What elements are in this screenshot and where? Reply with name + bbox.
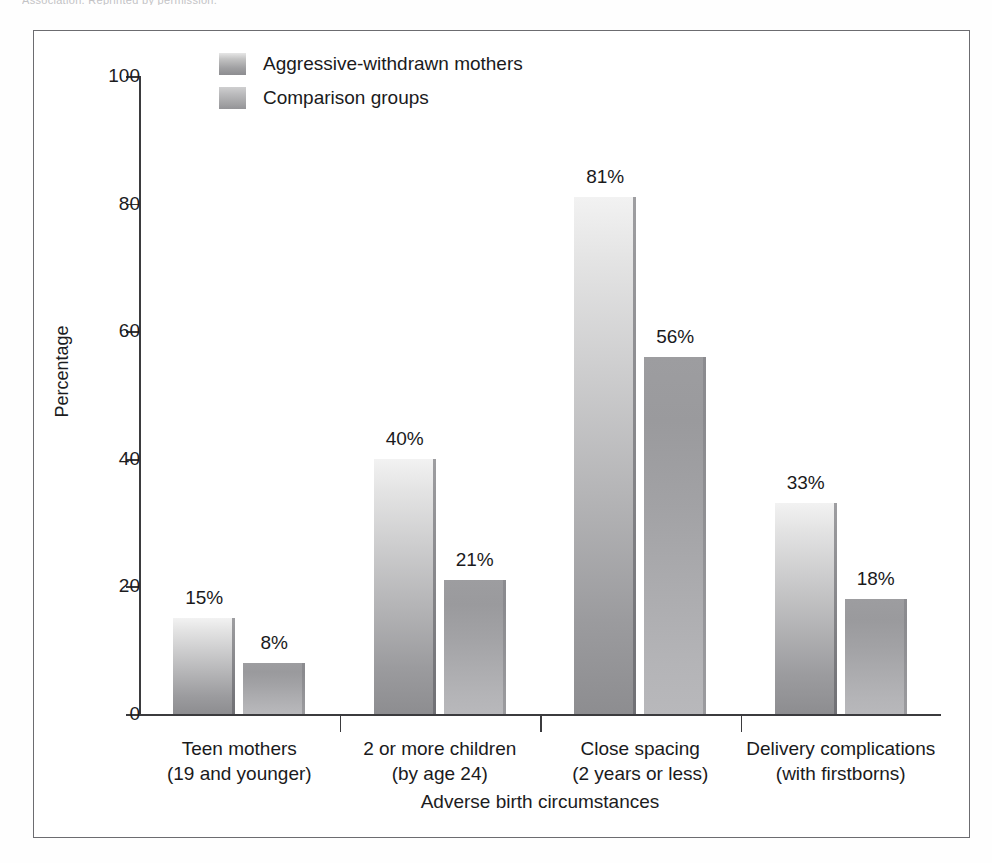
bar-value-label: 8% bbox=[261, 632, 288, 654]
bar-value-label: 18% bbox=[857, 568, 895, 590]
legend-item-series-1: Aggressive-withdrawn mothers bbox=[219, 49, 523, 78]
figure-frame: Aggressive-withdrawn mothers Comparison … bbox=[33, 30, 970, 838]
category-label-line1: 2 or more children bbox=[340, 736, 541, 761]
bar-group-2-series-1: 40% bbox=[374, 459, 436, 714]
bar-group-4-series-1: 33% bbox=[775, 503, 837, 714]
y-axis-title: Percentage bbox=[52, 282, 73, 462]
plot-area: Aggressive-withdrawn mothers Comparison … bbox=[34, 31, 971, 839]
x-axis-separator-tick bbox=[340, 715, 342, 732]
bar-value-label: 15% bbox=[185, 587, 223, 609]
legend-swatch-icon-series-1 bbox=[219, 53, 246, 75]
x-axis-separator-tick bbox=[540, 715, 542, 732]
bar-group-3-series-1: 81% bbox=[574, 197, 636, 714]
x-category-label-1: Teen mothers(19 and younger) bbox=[139, 736, 340, 787]
bar-value-label: 33% bbox=[787, 472, 825, 494]
legend-label-series-1: Aggressive-withdrawn mothers bbox=[263, 53, 523, 75]
figure-page: Association. Reprinted by permission. Ag… bbox=[0, 0, 992, 863]
y-tick-label: 20 bbox=[82, 575, 140, 597]
bar-group-3-series-2: 56% bbox=[644, 357, 706, 714]
category-label-line2: (with firstborns) bbox=[741, 761, 942, 786]
chart-legend: Aggressive-withdrawn mothers Comparison … bbox=[219, 49, 523, 117]
category-label-line1: Delivery complications bbox=[741, 736, 942, 761]
x-category-label-4: Delivery complications(with firstborns) bbox=[741, 736, 942, 787]
category-label-line1: Teen mothers bbox=[139, 736, 340, 761]
y-tick-label: 60 bbox=[82, 320, 140, 342]
bar-value-label: 56% bbox=[656, 326, 694, 348]
legend-swatch-icon-series-2 bbox=[219, 87, 246, 109]
x-axis-separator-tick bbox=[741, 715, 743, 732]
bar-group-4-series-2: 18% bbox=[845, 599, 907, 714]
y-axis-line bbox=[139, 76, 141, 715]
y-tick-label: 100 bbox=[82, 65, 140, 87]
bar-value-label: 21% bbox=[456, 549, 494, 571]
scan-text-fragment: Association. Reprinted by permission. bbox=[22, 0, 217, 5]
y-tick-label: 0 bbox=[82, 703, 140, 725]
bar-value-label: 40% bbox=[386, 428, 424, 450]
legend-item-series-2: Comparison groups bbox=[219, 83, 523, 112]
category-label-line2: (19 and younger) bbox=[139, 761, 340, 786]
y-tick-label: 80 bbox=[82, 193, 140, 215]
x-axis-title: Adverse birth circumstances bbox=[139, 791, 941, 813]
category-label-line2: (2 years or less) bbox=[540, 761, 741, 786]
x-category-label-3: Close spacing(2 years or less) bbox=[540, 736, 741, 787]
x-category-label-2: 2 or more children(by age 24) bbox=[340, 736, 541, 787]
category-label-line1: Close spacing bbox=[540, 736, 741, 761]
bar-group-1-series-1: 15% bbox=[173, 618, 235, 714]
category-label-line2: (by age 24) bbox=[340, 761, 541, 786]
bar-group-2-series-2: 21% bbox=[444, 580, 506, 714]
legend-label-series-2: Comparison groups bbox=[263, 87, 429, 109]
bar-value-label: 81% bbox=[586, 166, 624, 188]
y-tick-label: 40 bbox=[82, 448, 140, 470]
bar-group-1-series-2: 8% bbox=[243, 663, 305, 714]
